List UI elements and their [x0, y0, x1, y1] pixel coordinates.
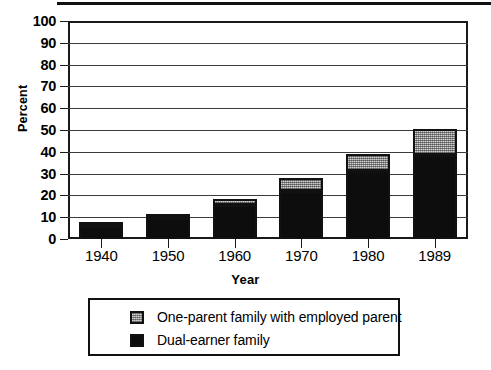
gridline: [68, 108, 468, 109]
bar-segment-one-parent: [346, 154, 390, 171]
gridline: [68, 217, 468, 218]
y-tick: [60, 21, 68, 22]
y-tick-label: 40: [0, 145, 56, 160]
bar-segment-dual-earner: [346, 171, 390, 239]
x-tick-label: 1950: [152, 247, 185, 264]
gridline: [68, 130, 468, 131]
y-tick-label: 10: [0, 210, 56, 225]
bar-group: [79, 21, 123, 239]
y-tick-label: 50: [0, 123, 56, 138]
bar-segment-one-parent: [413, 129, 457, 155]
bar-group: [279, 21, 323, 239]
y-tick: [60, 43, 68, 44]
y-tick: [60, 65, 68, 66]
y-tick: [60, 86, 68, 87]
gridline: [68, 65, 468, 66]
y-tick-label: 20: [0, 188, 56, 203]
legend-swatch-dual-earner-icon: [130, 334, 144, 347]
bar-segment-one-parent: [146, 214, 190, 218]
y-tick-label: 0: [0, 232, 56, 247]
gridline: [68, 195, 468, 196]
x-tick-label: 1940: [85, 247, 118, 264]
y-tick-label: 30: [0, 166, 56, 181]
y-tick: [60, 217, 68, 218]
y-tick: [60, 152, 68, 153]
x-tick-label: 1970: [285, 247, 318, 264]
y-tick-label: 90: [0, 36, 56, 51]
x-tick-label: 1989: [418, 247, 451, 264]
top-divider-rule: [57, 2, 491, 5]
y-tick: [60, 130, 68, 131]
bar-segment-dual-earner: [213, 205, 257, 239]
legend-swatch-one-parent-icon: [130, 311, 144, 324]
x-axis-title: Year: [0, 272, 491, 287]
bar-group: [146, 21, 190, 239]
figure-root: Percent 0102030405060708090100 194019501…: [0, 0, 491, 370]
bar-segment-dual-earner: [79, 226, 123, 239]
plot-area: [68, 21, 468, 239]
y-tick-label: 70: [0, 79, 56, 94]
x-tick-label: 1980: [352, 247, 385, 264]
gridline: [68, 43, 468, 44]
y-tick-label: 60: [0, 101, 56, 116]
gridline: [68, 86, 468, 87]
y-tick: [60, 108, 68, 109]
legend-label-one-parent: One-parent family with employed parent: [157, 310, 401, 324]
gridline: [68, 174, 468, 175]
legend-label-dual-earner: Dual-earner family: [157, 333, 270, 347]
y-tick-label: 80: [0, 57, 56, 72]
gridline: [68, 152, 468, 153]
bar-group: [346, 21, 390, 239]
bar-segment-dual-earner: [413, 155, 457, 239]
bar-segment-dual-earner: [279, 191, 323, 239]
y-tick: [60, 239, 68, 240]
bar-group: [213, 21, 257, 239]
bar-segment-one-parent: [213, 199, 257, 206]
bar-segment-one-parent: [79, 222, 123, 226]
legend-item-dual-earner: Dual-earner family: [130, 331, 270, 349]
x-tick-label: 1960: [218, 247, 251, 264]
y-tick: [60, 174, 68, 175]
bar-segment-dual-earner: [146, 218, 190, 239]
y-tick: [60, 195, 68, 196]
bar-group: [413, 21, 457, 239]
y-tick-label: 100: [0, 14, 56, 29]
legend-box: One-parent family with employed parent D…: [88, 298, 400, 356]
legend-item-one-parent: One-parent family with employed parent: [130, 308, 401, 326]
bar-segment-one-parent: [279, 178, 323, 191]
